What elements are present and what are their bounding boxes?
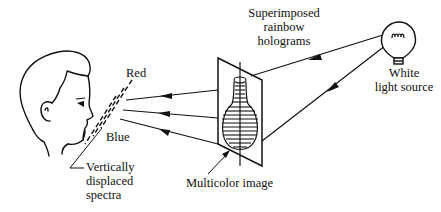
ray-arrowheads: [158, 93, 172, 136]
middle-ray: [123, 110, 218, 118]
spectra-label-line-2: displaced: [86, 174, 135, 188]
hologram-label-line-2: rainbow: [232, 20, 336, 34]
spectra-label-line-3: spectra: [86, 188, 135, 202]
multicolor-image-label: Multicolor image: [186, 176, 273, 190]
image-leader-arrowhead: [222, 150, 230, 158]
light-source-label: White light source: [370, 66, 438, 94]
spectra-label-line-1: Vertically: [86, 160, 135, 174]
light-bulb-icon: [382, 22, 416, 64]
illumination-arrowheads: [308, 54, 339, 92]
hologram-label: Superimposed rainbow holograms: [232, 6, 336, 48]
blue-label: Blue: [106, 130, 130, 144]
hologram-label-line-1: Superimposed: [232, 6, 336, 20]
diagram-canvas: Superimposed rainbow holograms White lig…: [0, 0, 441, 212]
hologram-label-line-3: holograms: [232, 34, 336, 48]
image-leader-line: [208, 155, 226, 174]
red-label: Red: [126, 66, 146, 80]
light-source-label-line-2: light source: [370, 80, 438, 94]
eyebrow-line: [76, 98, 85, 99]
spectra-label: Vertically displaced spectra: [86, 160, 135, 202]
eye-icon: [77, 101, 84, 107]
light-source-label-line-1: White: [370, 66, 438, 80]
